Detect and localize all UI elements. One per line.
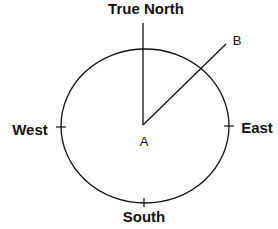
east-label: East [241,119,273,136]
compass-diagram: True North West East South A B [0,0,278,229]
bearing-line-a-to-b [143,44,226,125]
point-b-label: B [233,33,242,48]
west-label: West [12,121,48,138]
south-label: South [123,208,166,225]
center-point-label: A [140,134,149,149]
compass-circle [61,49,229,203]
true-north-label: True North [108,0,184,17]
